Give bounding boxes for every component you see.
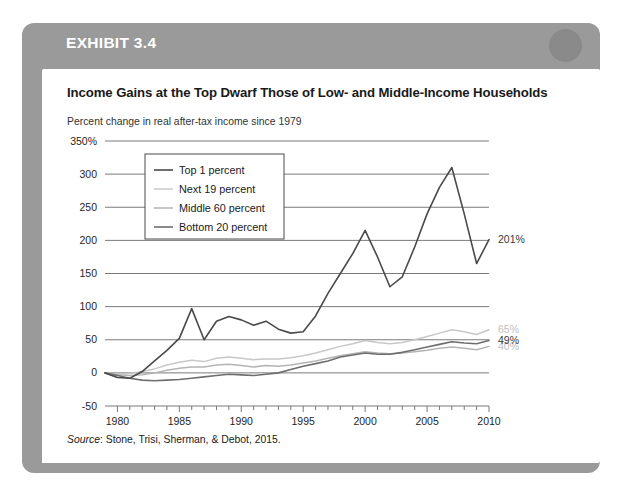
y-axis-tick-label: 0: [91, 366, 97, 378]
y-axis-tick-label: -50: [82, 400, 97, 412]
y-axis-tick-label: 50: [85, 333, 97, 345]
x-axis-tick-label: 1980: [106, 415, 130, 427]
series-end-label: 201%: [498, 233, 525, 245]
header-circle-decoration: [549, 29, 582, 62]
source-note: Source: Stone, Trisi, Sherman, & Debot, …: [67, 434, 281, 445]
series-end-label: 49%: [498, 334, 519, 346]
x-axis-tick-label: 2000: [353, 415, 377, 427]
y-axis-tick-label: 100: [79, 300, 97, 312]
series-line: [105, 346, 489, 375]
x-axis-tick-label: 1990: [230, 415, 254, 427]
line-chart: 350%300250200150100500-50198019851990199…: [42, 131, 600, 431]
y-axis-tick-label: 350%: [70, 135, 97, 147]
exhibit-card: EXHIBIT 3.4 Income Gains at the Top Dwar…: [22, 23, 600, 473]
y-axis-tick-label: 300: [79, 168, 97, 180]
legend-label: Middle 60 percent: [179, 202, 265, 214]
legend-label: Next 19 percent: [179, 183, 255, 195]
y-axis-tick-label: 250: [79, 201, 97, 213]
legend-label: Top 1 percent: [179, 164, 244, 176]
x-axis-tick-label: 1995: [292, 415, 316, 427]
chart-subtitle: Percent change in real after-tax income …: [67, 116, 302, 127]
y-axis-tick-label: 200: [79, 234, 97, 246]
x-axis-tick-label: 2005: [415, 415, 439, 427]
x-axis-tick-label: 2010: [477, 415, 501, 427]
exhibit-label: EXHIBIT 3.4: [66, 34, 156, 52]
legend-label: Bottom 20 percent: [179, 221, 267, 233]
source-text: : Stone, Trisi, Sherman, & Debot, 2015.: [100, 434, 281, 445]
series-line: [105, 340, 489, 380]
y-axis-tick-label: 150: [79, 267, 97, 279]
chart-title: Income Gains at the Top Dwarf Those of L…: [67, 85, 548, 100]
chart-plot-area: 350%300250200150100500-50198019851990199…: [42, 131, 600, 431]
x-axis-tick-label: 1985: [168, 415, 192, 427]
exhibit-content: Income Gains at the Top Dwarf Those of L…: [42, 69, 600, 463]
source-lead: Source: [67, 434, 100, 445]
